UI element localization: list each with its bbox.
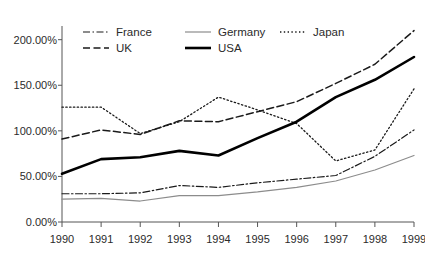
x-axis-tick-marks: [62, 222, 414, 227]
legend-label-japan: Japan: [313, 26, 344, 38]
legend-label-germany: Germany: [218, 26, 266, 38]
y-axis-tick-marks: [58, 40, 62, 222]
series-line-germany: [62, 155, 414, 201]
y-tick-label: 200.00%: [14, 34, 58, 46]
line-chart: 0.00%50.00%100.00%150.00%200.00% 1990199…: [0, 0, 425, 260]
legend-label-usa: USA: [218, 42, 242, 54]
y-axis-tick-labels: 0.00%50.00%100.00%150.00%200.00%: [14, 34, 58, 228]
series-lines: [62, 31, 414, 201]
x-tick-label: 1994: [206, 233, 230, 245]
x-tick-label: 1992: [128, 233, 152, 245]
series-line-japan: [62, 89, 414, 161]
legend-label-uk: UK: [116, 42, 132, 54]
x-tick-label: 1993: [167, 233, 191, 245]
x-tick-label: 1996: [284, 233, 308, 245]
y-tick-label: 0.00%: [26, 216, 57, 228]
series-line-usa: [62, 57, 414, 174]
y-tick-label: 150.00%: [14, 79, 58, 91]
x-tick-label: 1990: [50, 233, 74, 245]
x-tick-label: 1991: [89, 233, 113, 245]
series-line-france: [62, 130, 414, 194]
x-axis-tick-labels: 1990199119921993199419951996199719981999: [50, 233, 425, 245]
x-tick-label: 1998: [363, 233, 387, 245]
chart-legend: FranceGermanyJapanUKUSA: [83, 26, 344, 54]
y-tick-label: 100.00%: [14, 125, 58, 137]
chart-canvas: 0.00%50.00%100.00%150.00%200.00% 1990199…: [0, 0, 425, 260]
x-tick-label: 1999: [402, 233, 425, 245]
x-tick-label: 1995: [245, 233, 269, 245]
x-tick-label: 1997: [324, 233, 348, 245]
legend-label-france: France: [116, 26, 152, 38]
y-tick-label: 50.00%: [20, 170, 58, 182]
